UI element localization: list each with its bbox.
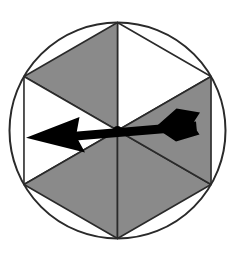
spinner-figure bbox=[0, 0, 239, 256]
spinner-wheel[interactable] bbox=[0, 0, 239, 256]
spinner-arrow-hub bbox=[113, 126, 122, 135]
